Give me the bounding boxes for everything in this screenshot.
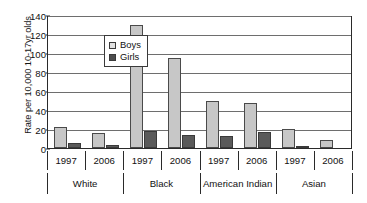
bar-boys bbox=[54, 127, 67, 148]
x-axis-separator bbox=[238, 151, 239, 170]
x-axis-separator bbox=[85, 151, 86, 170]
x-axis-separator bbox=[352, 151, 353, 170]
bar-boys bbox=[206, 101, 219, 149]
x-axis-group-separator bbox=[123, 173, 124, 194]
bar-chart-figure: Rate per 10,000 10-17yr olds 02040608010… bbox=[0, 0, 367, 203]
girls-swatch-icon bbox=[109, 54, 116, 61]
gridline bbox=[48, 16, 351, 17]
gridline bbox=[48, 73, 351, 74]
plot-area: Boys Girls bbox=[47, 16, 352, 149]
y-tick-label: 0 bbox=[16, 144, 46, 155]
x-axis-separator bbox=[123, 151, 124, 170]
x-axis-separator bbox=[161, 151, 162, 170]
bar-girls bbox=[220, 136, 233, 148]
x-axis-band: 19972006199720061997200619972006 WhiteBl… bbox=[47, 149, 352, 195]
bar-boys bbox=[320, 140, 333, 148]
x-axis-group-separator bbox=[47, 173, 48, 194]
x-axis-group-row: WhiteBlackAmerican IndianAsian bbox=[47, 172, 352, 195]
x-tick-label-year: 1997 bbox=[47, 149, 85, 172]
x-axis-separator bbox=[314, 151, 315, 170]
bar-girls bbox=[258, 132, 271, 148]
x-axis-group-separator bbox=[352, 173, 353, 194]
bar-boys bbox=[92, 133, 105, 148]
x-axis-group-label: Black bbox=[123, 172, 199, 195]
bar-girls bbox=[68, 143, 81, 148]
gridline bbox=[48, 111, 351, 112]
bar-girls bbox=[144, 131, 157, 148]
chart-legend: Boys Girls bbox=[104, 35, 148, 67]
x-axis-group-separator bbox=[200, 173, 201, 194]
x-tick-label-year: 2006 bbox=[161, 149, 199, 172]
x-tick-label-year: 2006 bbox=[238, 149, 276, 172]
gridline bbox=[48, 130, 351, 131]
x-tick-label-year: 1997 bbox=[123, 149, 161, 172]
legend-label-girls: Girls bbox=[120, 52, 139, 62]
y-tick-label: 140 bbox=[16, 11, 46, 22]
bar-girls bbox=[296, 146, 309, 148]
x-axis-group-label: Asian bbox=[276, 172, 352, 195]
bar-boys bbox=[244, 103, 257, 148]
bar-boys bbox=[282, 129, 295, 148]
y-tick-label: 60 bbox=[16, 87, 46, 98]
bar-girls bbox=[106, 145, 119, 148]
y-tick-label: 80 bbox=[16, 68, 46, 79]
x-axis-year-row: 19972006199720061997200619972006 bbox=[47, 149, 352, 172]
x-axis-group-label: White bbox=[47, 172, 123, 195]
x-tick-label-year: 2006 bbox=[85, 149, 123, 172]
gridline bbox=[48, 92, 351, 93]
x-tick-label-year: 1997 bbox=[276, 149, 314, 172]
y-tick-label: 20 bbox=[16, 125, 46, 136]
y-tick-label: 120 bbox=[16, 30, 46, 41]
x-axis-separator bbox=[276, 151, 277, 170]
legend-label-boys: Boys bbox=[120, 40, 141, 50]
legend-item-boys: Boys bbox=[109, 39, 141, 51]
x-axis-group-label: American Indian bbox=[200, 172, 276, 195]
bar-boys bbox=[168, 58, 181, 148]
y-tick-label: 40 bbox=[16, 106, 46, 117]
gridline bbox=[48, 35, 351, 36]
y-tick-label: 100 bbox=[16, 49, 46, 60]
x-axis-separator bbox=[200, 151, 201, 170]
bar-girls bbox=[182, 135, 195, 148]
x-axis-separator bbox=[47, 151, 48, 170]
legend-item-girls: Girls bbox=[109, 51, 141, 63]
boys-swatch-icon bbox=[109, 42, 116, 49]
x-tick-label-year: 2006 bbox=[314, 149, 352, 172]
x-tick-label-year: 1997 bbox=[200, 149, 238, 172]
x-axis-group-separator bbox=[276, 173, 277, 194]
gridline bbox=[48, 54, 351, 55]
